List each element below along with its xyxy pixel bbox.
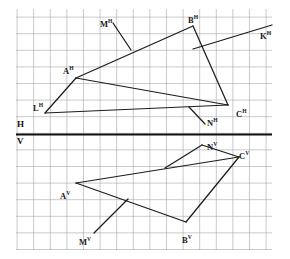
label-a-v-superscript: V <box>66 190 70 196</box>
label-c-h-superscript: H <box>242 108 246 114</box>
leader-m-v <box>94 199 128 233</box>
label-n-v: NV <box>207 143 217 152</box>
v-label: V <box>17 137 24 146</box>
label-k-h-superscript: H <box>267 30 271 36</box>
label-a-v: AV <box>60 192 70 201</box>
line-b-c-v <box>186 157 239 222</box>
descriptive-geometry-figure: MHBHKHAHLHNHCHNVCVAVMVBV HV <box>0 0 290 259</box>
label-m-v-base: M <box>79 237 87 247</box>
label-c-v: CV <box>239 152 249 161</box>
label-n-h: NH <box>207 119 218 128</box>
label-m-h-base: M <box>100 19 108 29</box>
projection-lines <box>0 0 290 259</box>
line-a-c-h <box>76 78 228 105</box>
leader-n-v <box>165 145 202 168</box>
label-b-h: BH <box>188 16 198 25</box>
label-c-v-superscript: V <box>245 150 249 156</box>
leader-n-h <box>189 107 205 124</box>
label-a-h: AH <box>63 67 74 76</box>
line-b-c-h <box>193 26 228 105</box>
label-m-h: MH <box>100 20 112 29</box>
label-c-h: CH <box>236 110 247 119</box>
label-n-v-superscript: V <box>213 141 217 147</box>
leader-m-h <box>113 23 131 50</box>
label-b-v: BV <box>182 236 192 245</box>
line-a-l-h <box>45 78 76 113</box>
h-label: H <box>17 120 24 129</box>
line-l-c-h <box>45 105 228 113</box>
label-m-v: MV <box>79 238 91 247</box>
label-a-h-superscript: H <box>69 65 73 71</box>
label-b-v-superscript: V <box>188 234 192 240</box>
label-l-h: LH <box>33 104 43 113</box>
line-a-c-v <box>76 157 239 183</box>
label-m-v-superscript: V <box>87 236 91 242</box>
label-l-h-superscript: H <box>39 102 43 108</box>
line-a-b-v <box>76 183 186 222</box>
label-n-h-superscript: H <box>213 117 217 123</box>
line-a-b-h <box>76 26 193 78</box>
label-m-h-superscript: H <box>108 18 112 24</box>
label-k-h: KH <box>260 32 271 41</box>
label-k-h-base: K <box>260 31 267 41</box>
label-b-h-superscript: H <box>194 14 198 20</box>
